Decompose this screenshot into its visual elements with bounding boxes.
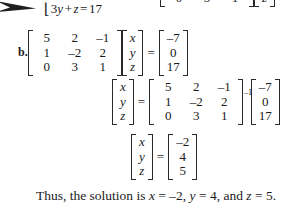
matrix-cell: –7 — [164, 31, 183, 46]
equation-part-b: b. 5 2 –1 1 –2 2 0 3 1 — [18, 30, 188, 76]
matrix-cell: –1 — [210, 80, 238, 95]
table-row: z — [259, 0, 270, 6]
matrix-cell: 0 — [165, 0, 193, 6]
variable-vector-b: x y z — [122, 30, 144, 76]
part-label-b: b. — [18, 45, 28, 59]
table-row: 1 –2 2 — [154, 95, 238, 110]
table-row: x — [127, 31, 139, 46]
matrix-cell: 17 — [164, 60, 183, 75]
table-row: –7 — [256, 80, 275, 95]
top-eq-var-z: z — [73, 1, 78, 16]
matrix-cell: 1 — [154, 95, 182, 110]
equals-sign: = — [143, 45, 158, 60]
conclusion-sentence: Thus, the solution is x = –2, y = 4, and… — [36, 188, 276, 204]
variable-vector-inverse: x y z — [112, 79, 134, 125]
document-page: ⌊3y+z=17 0 3 1 z b. 5 — [0, 0, 303, 210]
matrix-cell: –7 — [256, 80, 275, 95]
matrix-cell: 2 — [182, 80, 210, 95]
table-row: y — [136, 150, 148, 165]
matrix-cell: 1 — [89, 60, 117, 75]
top-variable-vector: z — [254, 0, 275, 7]
conclusion-y-eq: = — [196, 188, 210, 203]
variable-vector-result: x y z — [131, 134, 153, 180]
top-matrix-row: 0 3 1 z — [160, 0, 275, 7]
conclusion-x-eq: = — [155, 188, 169, 203]
table-row: 0 — [164, 46, 183, 61]
constant-vector-b: –7 0 17 — [159, 30, 188, 76]
equals-sign: = — [153, 149, 168, 164]
table-row: 0 3 1 — [165, 0, 249, 6]
matrix-cell: z — [117, 109, 129, 124]
top-eq-plus: + — [63, 1, 73, 16]
table-row: 0 3 1 — [33, 60, 117, 75]
matrix-cell: 5 — [154, 80, 182, 95]
table-row: 5 — [173, 164, 192, 179]
matrix-cell: x — [117, 80, 129, 95]
table-row: x — [136, 135, 148, 150]
matrix-cell: x — [127, 31, 139, 46]
matrix-cell: –2 — [173, 135, 192, 150]
conclusion-sep2: , and — [217, 188, 247, 203]
conclusion-period: . — [273, 188, 276, 203]
table-row: x — [117, 80, 129, 95]
top-eq-rhs: 17 — [89, 1, 102, 16]
matrix-cell: 1 — [33, 46, 61, 61]
matrix-cell: 0 — [33, 60, 61, 75]
table-row: 17 — [256, 109, 275, 124]
matrix-cell: 0 — [256, 95, 275, 110]
matrix-cell: z — [259, 0, 270, 6]
matrix-cell: 2 — [61, 31, 89, 46]
matrix-cell: –2 — [182, 95, 210, 110]
matrix-cell: x — [136, 135, 148, 150]
table-row: 17 — [164, 60, 183, 75]
matrix-cell: 1 — [221, 0, 249, 6]
table-row: 5 2 –1 — [154, 80, 238, 95]
matrix-cell: 5 — [33, 31, 61, 46]
matrix-cell: 4 — [173, 150, 192, 165]
matrix-cell: –2 — [61, 46, 89, 61]
matrix-cell: –1 — [89, 31, 117, 46]
matrix-cell: 3 — [61, 60, 89, 75]
matrix-cell: y — [136, 150, 148, 165]
equation-result-step: x y z = –2 4 5 — [131, 134, 197, 180]
conclusion-sep1: , — [183, 188, 190, 203]
matrix-cell: 5 — [173, 164, 192, 179]
conclusion-lead: Thus, the solution is — [36, 188, 149, 203]
top-eq-equals: = — [79, 1, 89, 16]
top-equation-line: ⌊3y+z=17 — [44, 0, 102, 17]
coefficient-matrix-inverse: 5 2 –1 1 –2 2 0 3 1 — [149, 79, 243, 125]
arrow-right-icon — [0, 1, 38, 14]
matrix-cell: 2 — [210, 95, 238, 110]
solution-vector: –2 4 5 — [168, 134, 197, 180]
conclusion-x-val: –2 — [169, 188, 183, 203]
table-row: –2 — [173, 135, 192, 150]
table-row: z — [117, 109, 129, 124]
conclusion-z-eq: = — [252, 188, 266, 203]
matrix-cell: z — [127, 60, 139, 75]
table-row: 0 3 1 — [154, 109, 238, 124]
matrix-cell: y — [127, 46, 139, 61]
matrix-cell: 1 — [210, 109, 238, 124]
left-brace-icon: ⌊ — [44, 0, 50, 18]
equation-inverse-step: x y z = 5 2 –1 1 –2 2 0 3 1 — [112, 79, 280, 125]
conclusion-z-val: 5 — [266, 188, 273, 203]
matrix-cell: 3 — [182, 109, 210, 124]
matrix-cell: 3 — [193, 0, 221, 6]
matrix-cell: 0 — [164, 46, 183, 61]
top-coefficient-matrix: 0 3 1 — [160, 0, 254, 7]
table-row: y — [127, 46, 139, 61]
coefficient-matrix-A: 5 2 –1 1 –2 2 0 3 1 — [28, 30, 122, 76]
constant-vector-inverse: –7 0 17 — [251, 79, 280, 125]
table-row: 4 — [173, 150, 192, 165]
matrix-cell: 17 — [256, 109, 275, 124]
conclusion-y-val: 4 — [210, 188, 217, 203]
table-row: 0 — [256, 95, 275, 110]
table-row: y — [117, 95, 129, 110]
equals-sign: = — [134, 94, 149, 109]
matrix-cell: 0 — [154, 109, 182, 124]
table-row: 1 –2 2 — [33, 46, 117, 61]
matrix-cell: y — [117, 95, 129, 110]
table-row: z — [136, 164, 148, 179]
matrix-cell: 2 — [89, 46, 117, 61]
table-row: 5 2 –1 — [33, 31, 117, 46]
